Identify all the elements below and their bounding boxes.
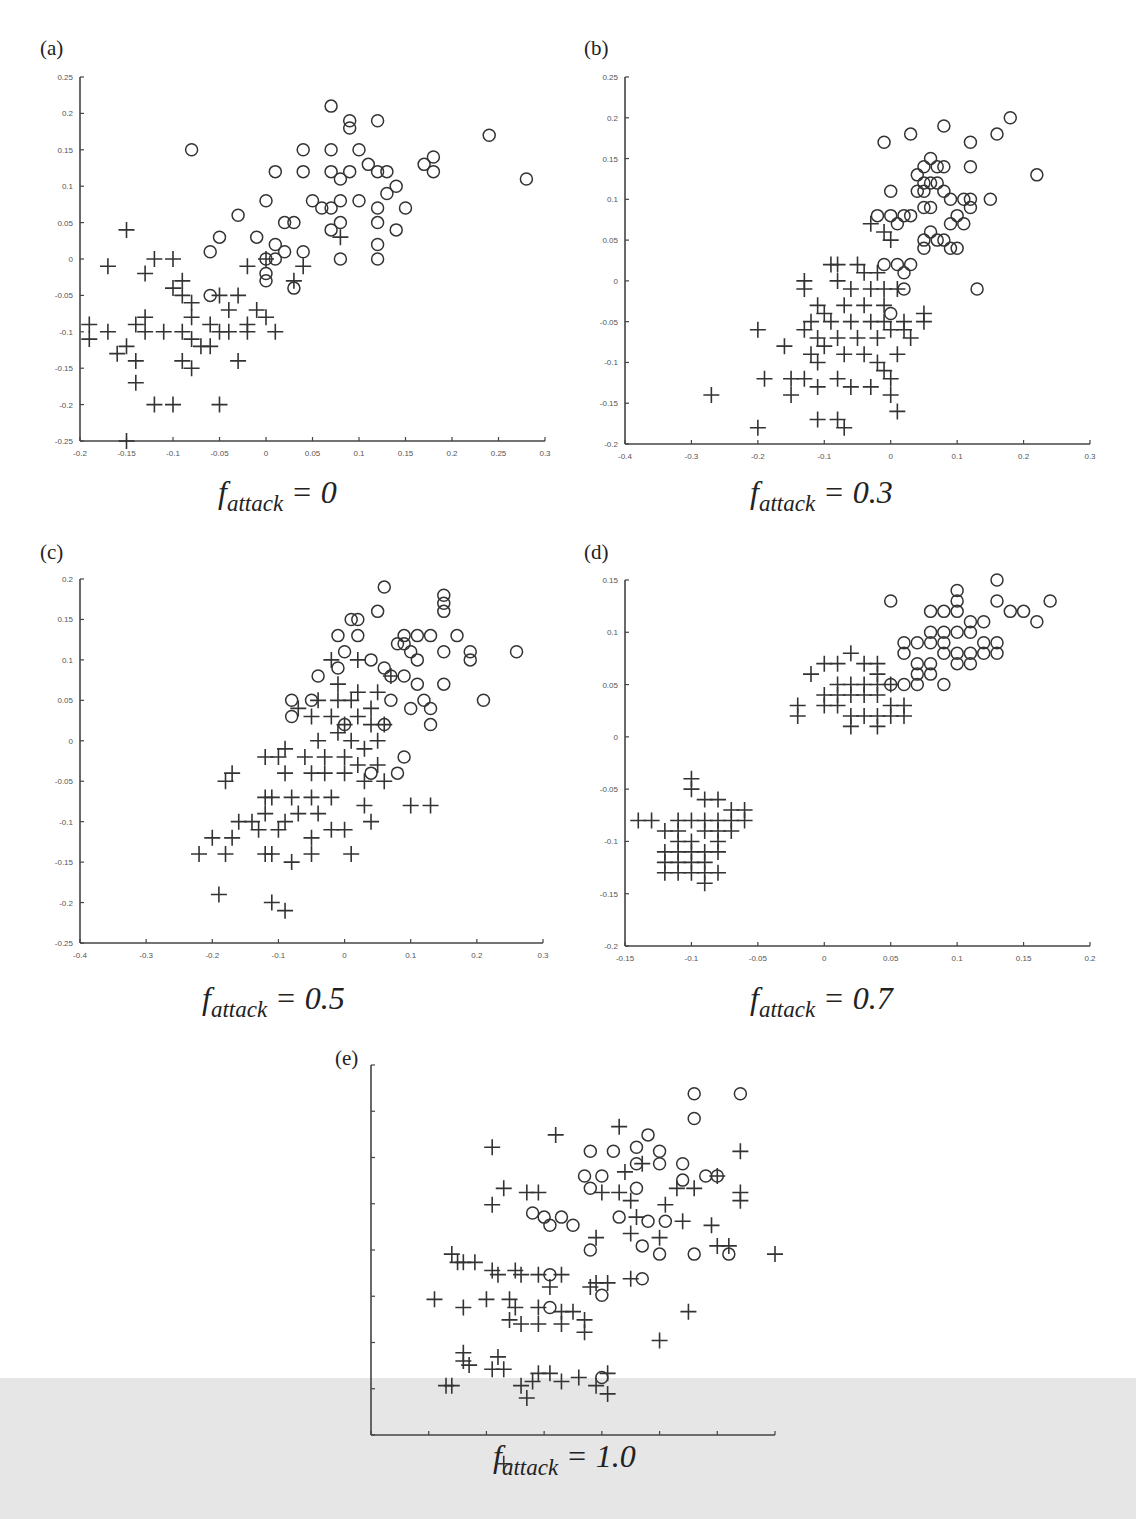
scatter-plots: -0.2-0.15-0.1-0.0500.050.10.150.20.250.3… bbox=[0, 0, 1136, 1519]
circle-marker bbox=[325, 100, 337, 112]
y-tick-label: -0.05 bbox=[55, 777, 74, 786]
y-tick-label: -0.15 bbox=[55, 364, 74, 373]
plus-marker bbox=[710, 865, 726, 881]
plus-marker bbox=[530, 1316, 546, 1332]
plus-marker bbox=[218, 846, 234, 862]
circle-marker bbox=[911, 637, 923, 649]
plus-marker bbox=[174, 353, 190, 369]
circle-marker bbox=[925, 605, 937, 617]
scatter-panel-3: -0.4-0.3-0.2-0.100.10.20.30.20.150.10.05… bbox=[55, 575, 549, 960]
plus-marker bbox=[323, 709, 339, 725]
plus-marker bbox=[836, 346, 852, 362]
y-tick-label: -0.2 bbox=[604, 942, 618, 951]
y-tick-label: -0.15 bbox=[600, 890, 619, 899]
circle-marker bbox=[918, 161, 930, 173]
circle-marker bbox=[411, 678, 423, 690]
circle-marker bbox=[1031, 616, 1043, 628]
y-tick-label: 0.15 bbox=[602, 576, 618, 585]
plus-marker bbox=[869, 687, 885, 703]
x-tick-label: -0.05 bbox=[210, 449, 229, 458]
plus-marker bbox=[343, 846, 359, 862]
plus-marker bbox=[565, 1304, 581, 1320]
circle-marker bbox=[677, 1174, 689, 1186]
circle-marker bbox=[418, 694, 430, 706]
plus-marker bbox=[810, 354, 826, 370]
plus-marker bbox=[128, 375, 144, 391]
plus-marker bbox=[843, 281, 859, 297]
plus-marker bbox=[810, 330, 826, 346]
circle-marker bbox=[538, 1211, 550, 1223]
plus-marker bbox=[863, 216, 879, 232]
circle-marker bbox=[186, 144, 198, 156]
x-tick-label: 0 bbox=[264, 449, 269, 458]
y-tick-label: 0.05 bbox=[57, 219, 73, 228]
circle-marker bbox=[334, 195, 346, 207]
circle-marker bbox=[477, 694, 489, 706]
plus-marker bbox=[876, 224, 892, 240]
x-tick-label: -0.2 bbox=[73, 449, 87, 458]
circle-marker bbox=[427, 151, 439, 163]
circle-marker bbox=[1004, 605, 1016, 617]
x-tick-label: 0.15 bbox=[398, 449, 414, 458]
plus-marker bbox=[709, 1168, 725, 1184]
circle-marker bbox=[464, 654, 476, 666]
circle-marker bbox=[1004, 112, 1016, 124]
circle-marker bbox=[991, 595, 1003, 607]
plus-marker bbox=[284, 854, 300, 870]
y-tick-label: 0.15 bbox=[57, 615, 73, 624]
plus-marker bbox=[732, 1143, 748, 1159]
plus-marker bbox=[350, 652, 366, 668]
circle-marker bbox=[425, 719, 437, 731]
plus-marker bbox=[221, 324, 237, 340]
circle-marker bbox=[991, 574, 1003, 586]
plus-marker bbox=[251, 822, 267, 838]
plus-marker bbox=[623, 1226, 639, 1242]
circle-marker bbox=[438, 678, 450, 690]
plus-marker bbox=[165, 280, 181, 296]
plus-marker bbox=[323, 652, 339, 668]
circle-marker bbox=[885, 185, 897, 197]
circle-marker bbox=[425, 630, 437, 642]
plus-marker bbox=[757, 371, 773, 387]
circle-marker bbox=[964, 136, 976, 148]
circle-marker bbox=[297, 166, 309, 178]
scatter-panel-5 bbox=[371, 1065, 783, 1472]
plus-marker bbox=[588, 1378, 604, 1394]
plus-marker bbox=[843, 645, 859, 661]
circle-marker bbox=[411, 654, 423, 666]
plus-marker bbox=[258, 309, 274, 325]
plus-marker bbox=[332, 229, 348, 245]
y-tick-label: 0.15 bbox=[602, 155, 618, 164]
plus-marker bbox=[869, 354, 885, 370]
plus-marker bbox=[732, 1193, 748, 1209]
plus-marker bbox=[370, 757, 386, 773]
plus-marker bbox=[553, 1316, 569, 1332]
plus-marker bbox=[496, 1180, 512, 1196]
circle-marker bbox=[353, 144, 365, 156]
plus-marker bbox=[184, 331, 200, 347]
circle-marker bbox=[984, 193, 996, 205]
plus-marker bbox=[876, 363, 892, 379]
circle-marker bbox=[214, 231, 226, 243]
plus-marker bbox=[623, 1271, 639, 1287]
x-tick-label: -0.3 bbox=[139, 951, 153, 960]
plus-marker bbox=[277, 903, 293, 919]
circle-marker bbox=[232, 209, 244, 221]
plus-marker bbox=[343, 733, 359, 749]
plus-marker bbox=[356, 797, 372, 813]
plus-marker bbox=[600, 1386, 616, 1402]
plus-marker bbox=[297, 749, 313, 765]
plus-marker bbox=[383, 668, 399, 684]
plus-marker bbox=[277, 741, 293, 757]
plus-marker bbox=[239, 258, 255, 274]
plus-marker bbox=[553, 1267, 569, 1283]
circle-marker bbox=[372, 238, 384, 250]
plus-marker bbox=[356, 741, 372, 757]
plus-marker bbox=[484, 1139, 500, 1155]
circle-marker bbox=[636, 1240, 648, 1252]
plus-marker bbox=[230, 287, 246, 303]
x-tick-label: 0.2 bbox=[1018, 452, 1030, 461]
x-tick-label: 0.3 bbox=[537, 951, 549, 960]
circle-marker bbox=[344, 115, 356, 127]
x-tick-label: -0.15 bbox=[616, 954, 635, 963]
